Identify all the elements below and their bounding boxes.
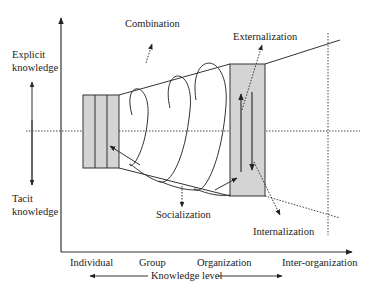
tacit-label-line1: Tacit xyxy=(12,192,58,205)
lower-dotted-extension xyxy=(265,196,340,218)
level-inter-organization: Inter-organization xyxy=(282,257,357,269)
socialization-label: Socialization xyxy=(156,209,211,221)
individual-box xyxy=(83,95,119,168)
organization-box xyxy=(230,64,265,196)
tacit-knowledge-label: Tacit knowledge xyxy=(12,192,58,218)
explicit-label-line1: Explicit xyxy=(12,48,58,61)
tacit-label-line2: knowledge xyxy=(12,205,58,218)
internalization-label: Internalization xyxy=(253,226,314,238)
knowledge-level-title: Knowledge level xyxy=(151,270,222,282)
level-individual: Individual xyxy=(70,257,113,269)
level-organization: Organization xyxy=(197,257,252,269)
knowledge-spiral-diagram xyxy=(0,0,365,292)
explicit-label-line2: knowledge xyxy=(12,61,58,74)
explicit-knowledge-label: Explicit knowledge xyxy=(12,48,58,74)
externalization-label: Externalization xyxy=(233,31,297,43)
spiral-loops xyxy=(130,63,230,195)
combination-arrow xyxy=(146,44,152,63)
combination-label: Combination xyxy=(125,18,180,30)
level-group: Group xyxy=(139,257,166,269)
